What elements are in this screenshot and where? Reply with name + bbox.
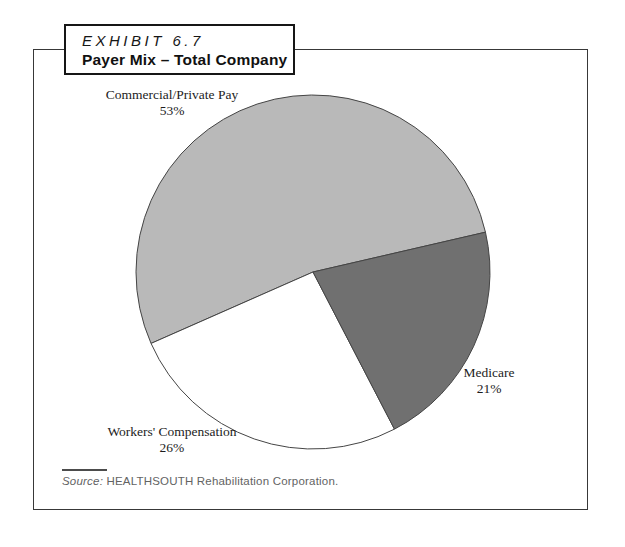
slice-label-workers-compensation: Workers' Compensation 26% — [107, 424, 236, 456]
slice-label-text: Medicare — [464, 365, 515, 381]
slice-label-commercial-private-pay: Commercial/Private Pay 53% — [106, 87, 238, 119]
exhibit-number: EXHIBIT 6.7 — [82, 31, 293, 50]
slice-label-pct: 53% — [106, 103, 238, 119]
slice-label-text: Workers' Compensation — [107, 424, 236, 440]
exhibit-title: Payer Mix – Total Company — [82, 50, 293, 70]
source-note: Source: HEALTHSOUTH Rehabilitation Corpo… — [62, 475, 338, 487]
slice-label-pct: 21% — [464, 381, 515, 397]
source-divider-rule — [62, 469, 107, 471]
source-label: Source: — [62, 475, 103, 487]
pie-chart — [128, 87, 498, 457]
slice-label-medicare: Medicare 21% — [464, 365, 515, 397]
slice-label-pct: 26% — [107, 440, 236, 456]
exhibit-header-box: EXHIBIT 6.7 Payer Mix – Total Company — [64, 24, 295, 75]
slice-label-text: Commercial/Private Pay — [106, 87, 238, 103]
source-text: HEALTHSOUTH Rehabilitation Corporation. — [106, 475, 338, 487]
